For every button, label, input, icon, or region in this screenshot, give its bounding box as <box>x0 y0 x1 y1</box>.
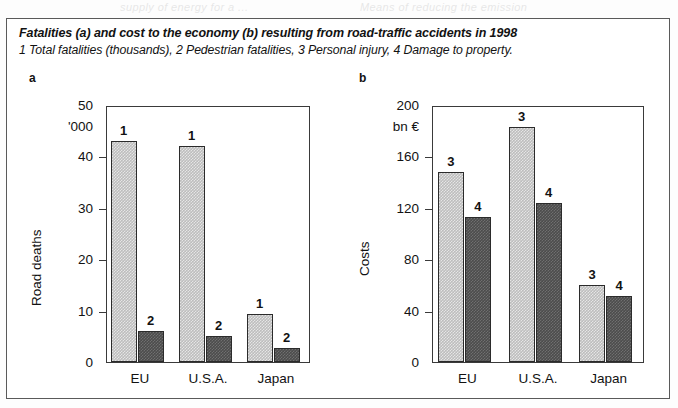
y-tick-mark <box>425 260 432 261</box>
y-tick-mark <box>425 209 432 210</box>
bar-series-label: 4 <box>530 186 568 199</box>
y-tick-mark <box>425 312 432 313</box>
panel-letter-a: a <box>29 71 36 85</box>
y-tick-label: 160 <box>396 151 419 165</box>
bar-series-label: 1 <box>105 124 143 137</box>
bar-series-label: 1 <box>173 129 211 142</box>
y-tick-label: 10 <box>78 305 93 319</box>
bar-eu-series1 <box>111 141 137 362</box>
y-axis-unit: bn € <box>393 120 419 134</box>
y-tick-label: 0 <box>411 356 419 370</box>
bar-groups-a: 121212 <box>107 107 309 362</box>
bar-series-label: 3 <box>503 110 541 123</box>
y-tick-label: 80 <box>404 253 419 267</box>
y-tick-mark <box>99 260 106 261</box>
y-tick-label: 200 <box>396 99 419 113</box>
plot-area-b: 343434 <box>432 106 644 363</box>
y-tick-mark <box>99 312 106 313</box>
bar-usa-series4 <box>536 203 562 362</box>
bar-japan-series3 <box>579 285 605 362</box>
figure-caption: Fatalities (a) and cost to the economy (… <box>7 19 669 58</box>
bar-usa-series2 <box>206 336 232 362</box>
bar-series-label: 2 <box>200 319 238 332</box>
bar-eu-series4 <box>465 217 491 362</box>
x-axis-category-label: Japan <box>564 372 654 386</box>
y-axis-ticks-a: '00001020304050 <box>7 106 106 363</box>
chart-panel-b: b Costs bn €04080120160200 343434 EUU.S.… <box>337 71 669 400</box>
bar-series-label: 1 <box>241 297 279 310</box>
bar-groups-b: 343434 <box>433 107 643 362</box>
figure-container: Fatalities (a) and cost to the economy (… <box>6 18 670 399</box>
chart-panel-a: a Road deaths '00001020304050 121212 EUU… <box>7 71 339 400</box>
y-tick-label: 30 <box>78 202 93 216</box>
plot-area-a: 121212 <box>106 106 310 363</box>
y-tick-label: 50 <box>78 99 93 113</box>
y-axis-ticks-b: bn €04080120160200 <box>337 106 432 363</box>
page-bleed-artifact: supply of energy for a ...Means of reduc… <box>0 0 678 16</box>
bar-series-label: 2 <box>268 331 306 344</box>
y-tick-label: 120 <box>396 202 419 216</box>
y-tick-mark <box>99 157 106 158</box>
bar-japan-series4 <box>606 296 632 362</box>
bar-series-label: 4 <box>600 279 638 292</box>
charts-area: a Road deaths '00001020304050 121212 EUU… <box>7 71 671 400</box>
bar-series-label: 2 <box>132 314 170 327</box>
caption-subtitle: 1 Total fatalities (thousands), 2 Pedest… <box>19 43 669 58</box>
bleed-text: Means of reducing the emission <box>360 1 527 13</box>
y-tick-mark <box>99 209 106 210</box>
bar-series-label: 3 <box>432 155 470 168</box>
y-tick-label: 40 <box>404 305 419 319</box>
y-tick-label: 40 <box>78 151 93 165</box>
bar-eu-series2 <box>138 331 164 362</box>
y-axis-unit: '000 <box>68 120 93 134</box>
panel-letter-b: b <box>359 71 366 85</box>
bar-usa-series3 <box>509 127 535 362</box>
bar-japan-series2 <box>274 348 300 362</box>
y-tick-label: 0 <box>85 356 93 370</box>
x-axis-category-label: Japan <box>231 372 321 386</box>
caption-title: Fatalities (a) and cost to the economy (… <box>19 26 669 41</box>
y-tick-label: 20 <box>78 253 93 267</box>
bleed-text: supply of energy for a ... <box>120 1 248 13</box>
bar-series-label: 4 <box>459 200 497 213</box>
